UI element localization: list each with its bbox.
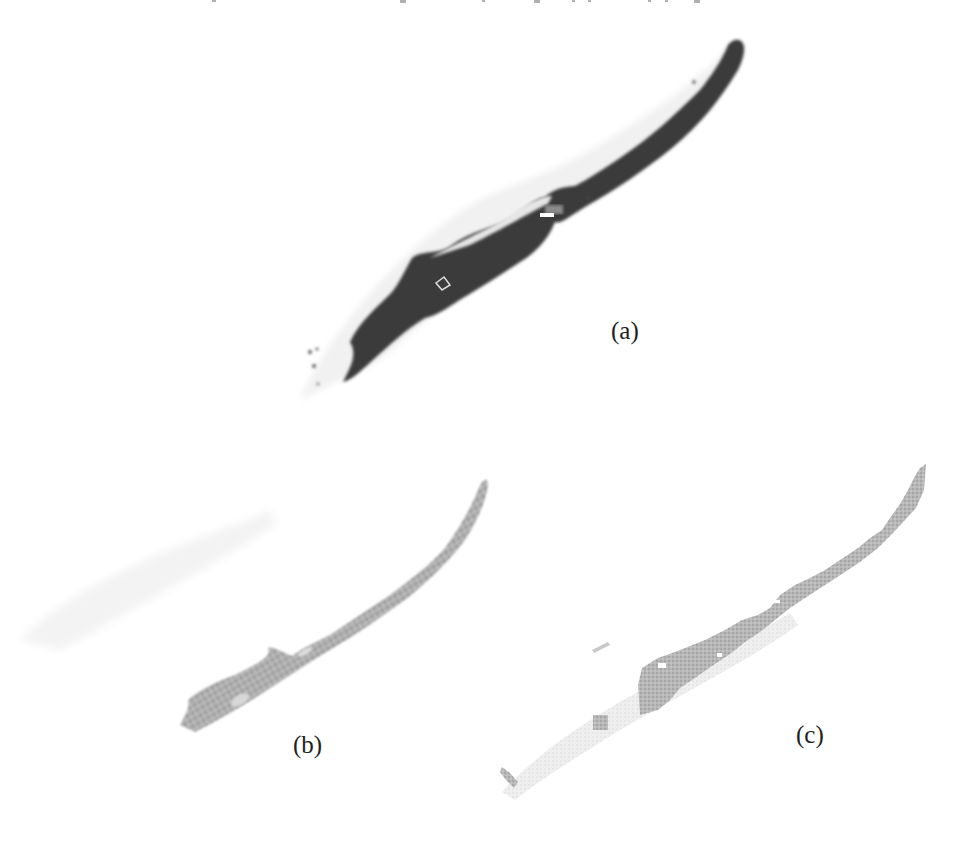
panel-a: (a) <box>0 0 973 420</box>
panel-c-image <box>480 420 973 843</box>
panel-a-label: (a) <box>611 318 639 343</box>
panel-b-label: (b) <box>293 732 322 757</box>
panel-b-image <box>0 420 490 843</box>
panel-c: (c) <box>480 420 973 843</box>
figure: (a) <box>0 0 973 843</box>
panel-a-image <box>0 0 973 420</box>
panel-c-pixel-cluster <box>593 715 608 730</box>
panel-b: (b) <box>0 420 490 843</box>
panel-c-label: (c) <box>796 722 824 747</box>
panel-b-shape <box>180 480 488 732</box>
panel-c-shape <box>638 464 926 715</box>
